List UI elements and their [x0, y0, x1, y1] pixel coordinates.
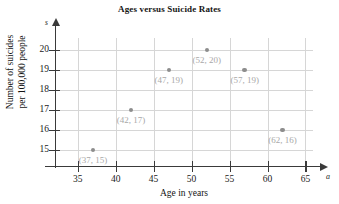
y-axis-tick	[49, 50, 60, 51]
x-axis-tick-label: 35	[66, 174, 90, 184]
gridline-vertical	[154, 38, 155, 166]
gridline-horizontal	[55, 50, 313, 51]
x-axis-tick	[116, 161, 117, 172]
x-axis-line	[45, 166, 322, 167]
x-axis-title: Age in years	[55, 188, 313, 198]
data-point	[280, 128, 285, 133]
y-axis-tick	[49, 90, 60, 91]
scatter-plot-figure: Ages versus Suicide Rates s a 1516171819…	[0, 0, 339, 204]
y-axis-tick	[49, 110, 60, 111]
x-axis-tick-label: 45	[142, 174, 166, 184]
y-axis-tick	[49, 150, 60, 151]
x-axis-tick-label: 60	[256, 174, 280, 184]
gridline-vertical	[230, 38, 231, 166]
x-axis-tick	[192, 161, 193, 172]
data-point-label: (37, 15)	[79, 155, 108, 165]
gridline-vertical	[78, 38, 79, 166]
y-axis-tick-label: 18	[29, 84, 49, 94]
plot-area	[55, 38, 313, 166]
x-axis-tick-label: 55	[218, 174, 242, 184]
x-axis-tick-label: 40	[104, 174, 128, 184]
data-point-label: (52, 20)	[193, 55, 222, 65]
y-axis-tick-label: 16	[29, 124, 49, 134]
y-variable-label: s	[45, 18, 48, 27]
y-axis-tick-label: 17	[29, 104, 49, 114]
x-axis-tick-label: 50	[180, 174, 204, 184]
x-axis-tick	[230, 161, 231, 172]
x-axis-tick-label: 65	[293, 174, 317, 184]
data-point-label: (42, 17)	[117, 115, 146, 125]
y-axis-tick	[49, 130, 60, 131]
gridline-vertical	[268, 38, 269, 166]
gridline-horizontal	[55, 130, 313, 131]
gridline-horizontal	[55, 90, 313, 91]
y-axis-tick-label: 20	[29, 44, 49, 54]
x-axis-tick	[305, 161, 306, 172]
y-axis-tick-label: 15	[29, 144, 49, 154]
x-axis-tick	[268, 161, 269, 172]
data-point-label: (57, 19)	[230, 75, 259, 85]
y-axis-title-line-1: Number of suicides	[4, 8, 16, 136]
y-axis-arrow-icon	[52, 18, 60, 26]
y-axis-title-line-2: per 100,000 people	[16, 8, 28, 136]
gridline-horizontal	[55, 70, 313, 71]
data-point-label: (62, 16)	[268, 135, 297, 145]
chart-title: Ages versus Suicide Rates	[0, 4, 339, 14]
y-axis-tick-label: 19	[29, 64, 49, 74]
y-axis-title: Number of suicides per 100,000 people	[4, 8, 28, 136]
x-variable-label: a	[326, 172, 330, 181]
data-point-label: (47, 19)	[155, 75, 184, 85]
gridline-horizontal	[55, 110, 313, 111]
gridline-vertical	[305, 38, 306, 166]
y-axis-tick	[49, 70, 60, 71]
gridline-vertical	[116, 38, 117, 166]
x-axis-tick	[154, 161, 155, 172]
x-axis-arrow-icon	[320, 163, 328, 171]
